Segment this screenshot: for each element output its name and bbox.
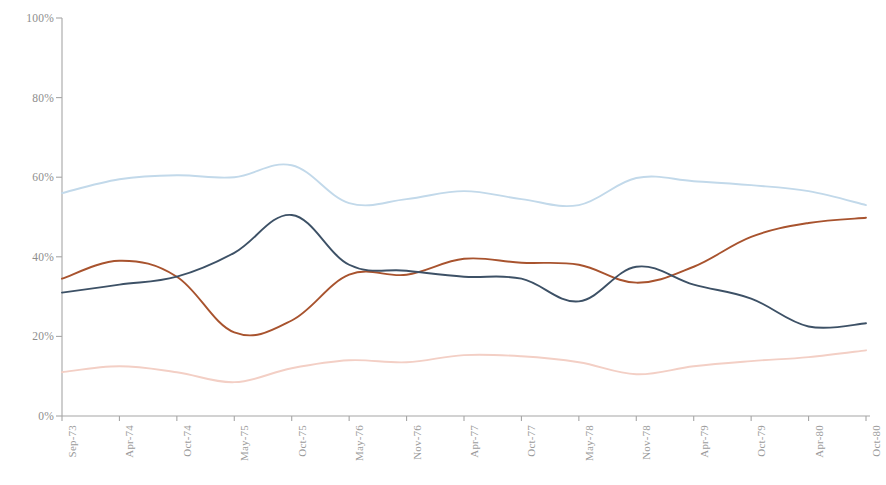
- y-axis-tick-label: 60%: [8, 171, 54, 183]
- y-axis-tick-label: 100%: [8, 12, 54, 24]
- x-axis-tick-label: May-76: [353, 425, 365, 461]
- x-axis-tick-label: Apr-77: [468, 425, 480, 458]
- y-axis-tick-label: 40%: [8, 251, 54, 263]
- x-axis-tick-label: Apr-80: [813, 425, 825, 458]
- chart-container: 0%20%40%60%80%100% Sep-73Apr-74Oct-74May…: [0, 0, 886, 485]
- x-axis-tick-label: May-75: [238, 425, 250, 461]
- x-axis-tick-label: Nov-76: [411, 425, 423, 460]
- series-line-series-light-pink: [62, 350, 866, 382]
- x-axis-tick-label: May-78: [583, 425, 595, 461]
- x-axis-tick-label: Oct-77: [525, 425, 537, 457]
- series-line-series-light-blue: [62, 164, 866, 206]
- line-chart: [0, 0, 886, 485]
- x-axis-tick-label: Apr-74: [123, 425, 135, 458]
- x-axis-tick-label: Oct-80: [870, 425, 882, 457]
- y-axis-tick-label: 80%: [8, 92, 54, 104]
- chart-series: [62, 164, 866, 382]
- y-axis-tick-label: 20%: [8, 330, 54, 342]
- x-axis-tick-label: Oct-74: [181, 425, 193, 457]
- x-axis-tick-label: Sep-73: [66, 425, 78, 457]
- y-axis-tick-label: 0%: [8, 410, 54, 422]
- x-axis-tick-label: Apr-79: [698, 425, 710, 458]
- x-axis-tick-label: Nov-78: [640, 425, 652, 460]
- x-axis-tick-label: Oct-79: [755, 425, 767, 457]
- x-axis-tick-label: Oct-75: [296, 425, 308, 457]
- series-line-series-dark-blue: [62, 215, 866, 328]
